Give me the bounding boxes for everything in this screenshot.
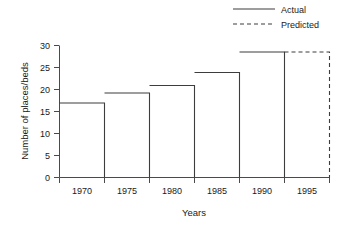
x-tick-label-1985: 1985 xyxy=(207,186,227,196)
y-tick-label-10: 10 xyxy=(40,129,50,139)
x-tick-label-1970: 1970 xyxy=(72,186,92,196)
bar-1990 xyxy=(240,52,285,178)
x-axis-title: Years xyxy=(182,207,206,218)
x-axis-ticks xyxy=(60,178,330,184)
bar-1970 xyxy=(60,103,105,178)
bar-chart-figure: Actual Predicted 0 5 10 15 20 25 30 xyxy=(0,0,347,230)
bar-1980 xyxy=(150,86,195,178)
chart-legend: Actual Predicted xyxy=(233,5,319,30)
bars-predicted xyxy=(285,52,330,178)
y-tick-label-15: 15 xyxy=(40,107,50,117)
bar-1985 xyxy=(195,73,240,178)
y-tick-label-0: 0 xyxy=(45,173,50,183)
bars-actual xyxy=(60,52,285,178)
y-tick-label-25: 25 xyxy=(40,63,50,73)
x-tick-label-1995: 1995 xyxy=(297,186,317,196)
legend-label-actual: Actual xyxy=(281,5,306,15)
x-tick-label-1980: 1980 xyxy=(162,186,182,196)
y-tick-label-30: 30 xyxy=(40,41,50,51)
x-axis-tick-labels: 1970 1975 1980 1985 1990 1995 xyxy=(72,186,317,196)
y-axis-ticks xyxy=(54,46,60,178)
y-tick-label-5: 5 xyxy=(45,151,50,161)
y-tick-label-20: 20 xyxy=(40,85,50,95)
y-axis-tick-labels: 0 5 10 15 20 25 30 xyxy=(40,41,50,183)
x-tick-label-1975: 1975 xyxy=(117,186,137,196)
bar-1975 xyxy=(105,93,150,178)
chart-container: Actual Predicted 0 5 10 15 20 25 30 xyxy=(0,0,347,230)
bar-1995-predicted xyxy=(285,52,330,178)
legend-label-predicted: Predicted xyxy=(281,20,319,30)
y-axis-title: Number of places/beds xyxy=(19,62,30,160)
x-tick-label-1990: 1990 xyxy=(252,186,272,196)
